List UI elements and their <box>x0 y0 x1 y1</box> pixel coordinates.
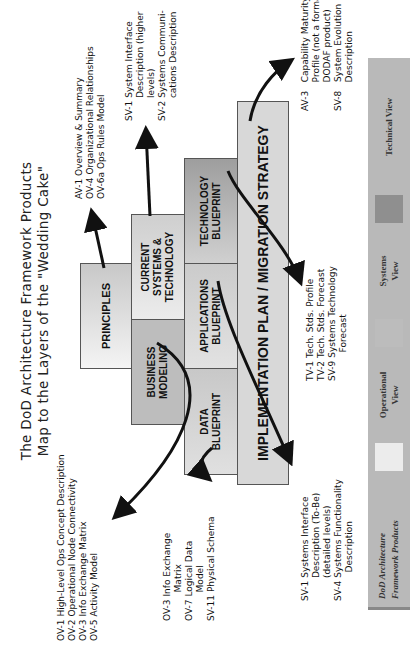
legend-title-line: Framework Products <box>389 479 402 599</box>
legend-label-line: View <box>389 231 401 311</box>
legend-label-line: Operational <box>377 355 389 435</box>
arrow-data <box>201 448 212 478</box>
arrow-current-systems <box>146 131 150 216</box>
legend-title-line: DoD Architecture <box>376 479 389 599</box>
legend-label-line: Systems <box>377 231 389 311</box>
legend-swatch-systems <box>375 319 403 347</box>
arrow-implementation <box>250 61 290 121</box>
connector-arrows <box>0 0 411 661</box>
legend-swatch-operational <box>375 443 403 471</box>
arrow-applications <box>218 281 290 461</box>
legend-label-systems: Systems View <box>377 231 401 311</box>
legend-swatch-technical <box>375 195 403 223</box>
legend-label-line: Technical View <box>383 67 395 187</box>
legend-label-technical: Technical View <box>383 67 395 187</box>
arrow-business <box>116 343 190 516</box>
arrow-technology <box>228 171 300 281</box>
arrow-principles <box>92 213 104 268</box>
legend-bar: DoD Architecture Framework Products Oper… <box>368 58 410 610</box>
legend-label-operational: Operational View <box>377 355 401 435</box>
wedding-cake-diagram: The DoD Architecture Framework Products … <box>0 0 411 661</box>
legend-label-line: View <box>389 355 401 435</box>
legend-title: DoD Architecture Framework Products <box>376 479 402 607</box>
